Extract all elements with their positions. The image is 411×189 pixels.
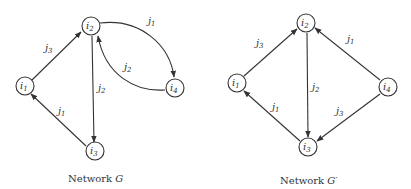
edge-label-g-i3-i1: j1 xyxy=(56,105,66,118)
edge-gp-i1-i2 xyxy=(244,29,297,76)
node-gp-i2: i2 xyxy=(297,14,315,32)
node-gp-i4: i4 xyxy=(379,78,397,96)
edge-label-g-i1-i2: j3 xyxy=(43,42,53,55)
edge-label-g-i2-i3: j2 xyxy=(96,82,106,95)
edge-g-i1-i2 xyxy=(32,32,81,80)
edge-g-i2-i3 xyxy=(92,36,94,142)
edge-label-gp-i2-i3: j2 xyxy=(310,81,320,94)
edge-gp-i4-i3 xyxy=(317,94,380,141)
caption-network-g: Network G xyxy=(68,173,123,184)
edge-g-i4-i2 xyxy=(98,36,165,90)
node-g-i1: i1 xyxy=(16,77,34,95)
node-g-i3: i3 xyxy=(86,142,104,160)
network-g-prime: j3 j2 j1 j1 j3 i1 i2 i3 i4 Network G′ xyxy=(228,14,397,186)
edge-g-i2-i4 xyxy=(100,22,174,77)
edge-label-gp-i3-i1: j1 xyxy=(270,101,280,114)
edge-gp-i3-i1 xyxy=(244,91,300,141)
edge-g-i3-i1 xyxy=(31,94,86,146)
edge-label-g-i4-i2: j2 xyxy=(122,61,132,74)
edge-label-gp-i4-i2: j1 xyxy=(345,33,355,46)
network-g: j3 j2 j1 j1 j2 i1 i2 i3 i4 Network G xyxy=(16,15,184,184)
edge-label-gp-i4-i3: j3 xyxy=(334,105,344,118)
edge-gp-i2-i3 xyxy=(307,33,308,137)
network-diagrams: j3 j2 j1 j1 j2 i1 i2 i3 i4 Network G xyxy=(0,0,411,189)
node-g-i2: i2 xyxy=(82,17,100,35)
node-gp-i3: i3 xyxy=(299,138,317,156)
edge-label-gp-i1-i2: j3 xyxy=(254,37,264,50)
node-g-i4: i4 xyxy=(166,79,184,97)
node-gp-i1: i1 xyxy=(228,74,246,92)
caption-network-g-prime: Network G′ xyxy=(280,175,338,186)
edge-label-g-i2-i4: j1 xyxy=(146,15,156,28)
